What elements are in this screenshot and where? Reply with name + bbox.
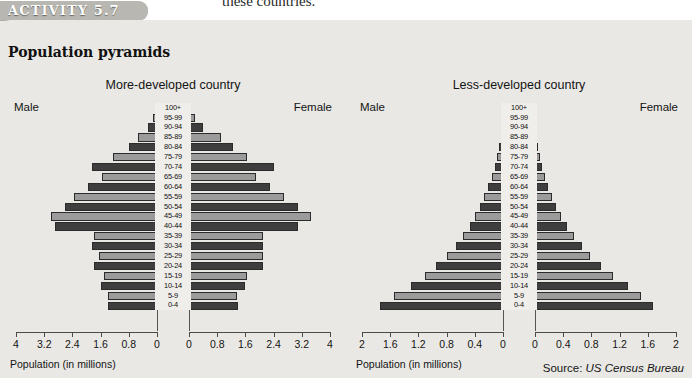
- age-group-label: 55-59: [501, 192, 537, 202]
- pyramid-row: 55-59: [0, 192, 346, 202]
- bar-male-45-49: [51, 212, 157, 220]
- x-tick: [330, 332, 331, 337]
- bar-male-25-29: [99, 252, 157, 260]
- age-group-label: 20-24: [155, 261, 191, 271]
- bar-female-65-69: [189, 173, 256, 181]
- bar-male-45-49: [475, 212, 503, 220]
- age-group-label: 50-54: [155, 202, 191, 212]
- age-group-label: 0-4: [501, 300, 537, 310]
- x-tick-label: 4: [327, 338, 333, 350]
- bar-male-50-54: [65, 203, 157, 211]
- age-group-label: 25-29: [155, 251, 191, 261]
- pyramid-row: 75-79: [0, 152, 346, 162]
- x-tick-label: 0: [500, 338, 506, 350]
- x-tick-label: 0.8: [439, 338, 454, 350]
- bar-female-75-79: [189, 153, 247, 161]
- age-group-label: 30-34: [155, 241, 191, 251]
- bar-female-0-4: [189, 302, 238, 310]
- x-tick-label: 0.8: [584, 338, 599, 350]
- axis-line-male: [16, 332, 157, 333]
- pyramid-row: 70-74: [346, 162, 692, 172]
- pyramid-row: 90-94: [0, 123, 346, 133]
- age-group-label: 60-64: [501, 182, 537, 192]
- x-tick: [302, 332, 303, 337]
- axis-caption-left: Population (in millions): [10, 358, 116, 370]
- pyramid-row: 10-14: [0, 281, 346, 291]
- age-group-label: 85-89: [501, 132, 537, 142]
- bar-male-5-9: [108, 292, 157, 300]
- pyramid-row: 70-74: [0, 162, 346, 172]
- x-tick-label: 1.6: [640, 338, 655, 350]
- chart-title-left: More-developed country: [0, 78, 346, 92]
- bar-male-15-19: [104, 272, 157, 280]
- axis-line-female: [189, 332, 330, 333]
- bar-male-75-79: [113, 153, 157, 161]
- pyramid-row: 80-84: [0, 143, 346, 153]
- age-group-label: 70-74: [155, 162, 191, 172]
- x-tick-label: 0: [532, 338, 538, 350]
- age-group-label: 50-54: [501, 202, 537, 212]
- x-tick: [503, 332, 504, 337]
- pyramid-plot-right: 100+95-9990-9485-8980-8475-7970-7465-696…: [346, 103, 692, 331]
- bar-male-15-19: [425, 272, 503, 280]
- x-tick: [362, 332, 363, 337]
- age-group-label: 85-89: [155, 132, 191, 142]
- bar-female-30-34: [189, 242, 263, 250]
- bar-male-25-29: [447, 252, 503, 260]
- pyramid-row: 5-9: [346, 291, 692, 301]
- pyramid-row: 10-14: [346, 281, 692, 291]
- age-group-label: 75-79: [501, 152, 537, 162]
- age-group-label: 75-79: [155, 152, 191, 162]
- bar-male-60-64: [88, 183, 157, 191]
- age-group-label: 45-49: [155, 211, 191, 221]
- x-tick-label: 1.2: [411, 338, 426, 350]
- pyramid-row: 45-49: [0, 212, 346, 222]
- x-tick-label: 1.2: [612, 338, 627, 350]
- x-tick-label: 0: [154, 338, 160, 350]
- x-tick-label: 3.2: [37, 338, 52, 350]
- pyramid-row: 45-49: [346, 212, 692, 222]
- pyramid-row: 20-24: [346, 261, 692, 271]
- chart-more-developed-country: More-developed country Male Female 100+9…: [0, 75, 346, 375]
- x-tick: [648, 332, 649, 337]
- x-tick: [72, 332, 73, 337]
- x-tick-label: 1.6: [93, 338, 108, 350]
- bar-male-30-34: [92, 242, 157, 250]
- bar-female-15-19: [189, 272, 247, 280]
- age-group-label: 70-74: [501, 162, 537, 172]
- bar-male-65-69: [102, 173, 157, 181]
- axis-line-male: [362, 332, 503, 333]
- bar-female-30-34: [535, 242, 582, 250]
- bar-male-35-39: [463, 232, 503, 240]
- pyramid-row: 65-69: [346, 172, 692, 182]
- x-tick: [535, 332, 536, 337]
- age-group-label: 55-59: [155, 192, 191, 202]
- x-tick-label: 0.4: [467, 338, 482, 350]
- activity-badge-label: ACTIVITY 5.7: [8, 3, 120, 18]
- bar-female-80-84: [189, 143, 233, 151]
- pyramid-row: 55-59: [346, 192, 692, 202]
- x-tick: [16, 332, 17, 337]
- pyramid-row: 25-29: [346, 251, 692, 261]
- bar-female-20-24: [189, 262, 263, 270]
- x-tick: [447, 332, 448, 337]
- pyramid-row: 30-34: [0, 241, 346, 251]
- pyramid-row: 65-69: [0, 172, 346, 182]
- bar-female-50-54: [535, 203, 556, 211]
- pyramid-row: 60-64: [0, 182, 346, 192]
- age-group-label: 5-9: [501, 291, 537, 301]
- pyramid-plot-left: 100+95-9990-9485-8980-8475-7970-7465-696…: [0, 103, 346, 331]
- age-group-label: 5-9: [155, 291, 191, 301]
- bar-male-5-9: [394, 292, 503, 300]
- running-body-text: these countries.: [222, 0, 315, 10]
- pyramid-row: 100+: [0, 103, 346, 113]
- age-group-label: 45-49: [501, 211, 537, 221]
- x-tick: [274, 332, 275, 337]
- pyramid-row: 40-44: [0, 222, 346, 232]
- bar-male-70-74: [92, 163, 157, 171]
- x-tick: [217, 332, 218, 337]
- pyramid-row: 5-9: [0, 291, 346, 301]
- x-tick: [157, 332, 158, 337]
- bar-male-40-44: [55, 222, 157, 230]
- pyramid-row: 60-64: [346, 182, 692, 192]
